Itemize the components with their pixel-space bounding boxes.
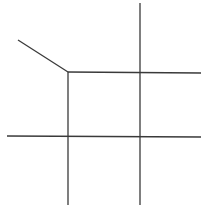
diagram-background [0, 0, 202, 215]
line-diagram [0, 0, 202, 215]
